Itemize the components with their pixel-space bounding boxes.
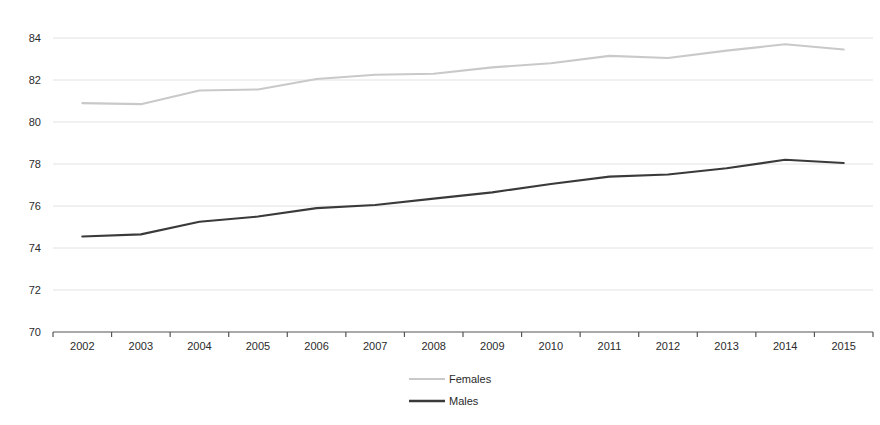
x-tick-label: 2003 <box>129 340 153 352</box>
y-tick-label: 80 <box>29 116 41 128</box>
y-tick-label: 76 <box>29 200 41 212</box>
y-tick-label: 78 <box>29 158 41 170</box>
y-tick-label: 70 <box>29 326 41 338</box>
x-tick-label: 2012 <box>656 340 680 352</box>
x-tick-label: 2013 <box>714 340 738 352</box>
x-tick-label: 2008 <box>421 340 445 352</box>
y-tick-label: 74 <box>29 242 41 254</box>
x-tick-label: 2014 <box>773 340 797 352</box>
y-tick-label: 82 <box>29 74 41 86</box>
x-tick-label: 2006 <box>304 340 328 352</box>
legend-label-females: Females <box>449 373 492 385</box>
x-tick-label: 2002 <box>70 340 94 352</box>
x-tick-label: 2009 <box>480 340 504 352</box>
x-tick-label: 2015 <box>831 340 855 352</box>
x-tick-label: 2004 <box>187 340 211 352</box>
y-tick-label: 72 <box>29 284 41 296</box>
chart-canvas: 7072747678808284 20022003200420052006200… <box>0 0 880 425</box>
y-tick-label: 84 <box>29 32 41 44</box>
x-tick-label: 2005 <box>246 340 270 352</box>
legend-label-males: Males <box>449 395 479 407</box>
line-chart: 7072747678808284 20022003200420052006200… <box>0 0 880 425</box>
x-tick-label: 2011 <box>598 340 622 352</box>
x-tick-label: 2007 <box>363 340 387 352</box>
x-tick-label: 2010 <box>539 340 563 352</box>
chart-background <box>0 0 880 425</box>
